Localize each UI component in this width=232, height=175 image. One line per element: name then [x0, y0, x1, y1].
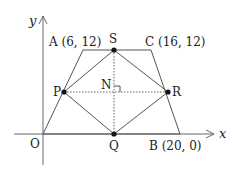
dotted-diagonals: [64, 50, 168, 134]
label-B: B (20, 0): [149, 139, 202, 153]
x-axis-label: x: [219, 126, 227, 141]
point-Q: [111, 131, 116, 136]
point-R: [165, 89, 170, 94]
point-P: [61, 89, 66, 94]
label-S: S: [109, 32, 117, 46]
origin-label: O: [30, 137, 40, 151]
label-C: C (16, 12): [145, 35, 206, 49]
point-S: [111, 47, 116, 52]
label-A: A (6, 12): [48, 35, 101, 49]
label-N: N: [101, 78, 112, 92]
y-axis-label: y: [28, 13, 37, 28]
label-R: R: [172, 85, 182, 99]
label-Q: Q: [109, 139, 119, 153]
right-angle-mark-icon: [114, 86, 120, 92]
label-P: P: [53, 85, 61, 99]
coordinate-diagram: y x O A (6, 12) S C (16, 12) P R N Q B (…: [0, 0, 232, 175]
